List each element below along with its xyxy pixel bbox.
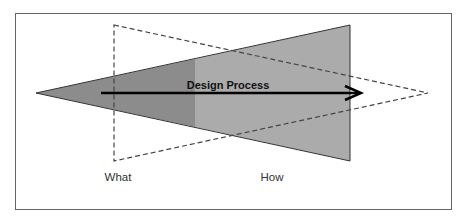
what-label: What (105, 171, 133, 183)
design-process-diagram: Design Process What How (0, 0, 467, 224)
design-process-label: Design Process (187, 79, 270, 91)
how-label: How (260, 171, 284, 183)
